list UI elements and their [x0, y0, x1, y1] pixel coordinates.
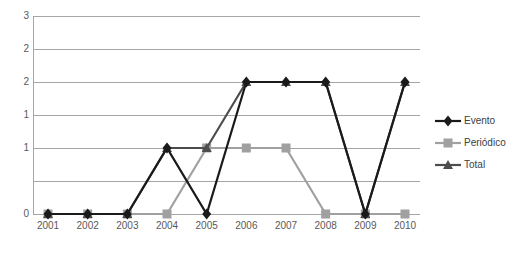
x-axis-tick-label: 2005: [187, 220, 227, 232]
chart-legend: EventoPeriódicoTotal: [434, 110, 518, 176]
x-axis-tick-label: 2002: [68, 220, 108, 232]
legend-marker-diamond: [434, 114, 462, 128]
x-axis: 2001200220032004200520062007200820092010: [33, 220, 420, 240]
legend-item-total[interactable]: Total: [434, 154, 518, 176]
data-point-marker: [282, 144, 291, 153]
legend-item-peridico[interactable]: Periódico: [434, 132, 518, 154]
y-axis-tick-label: 2: [3, 77, 29, 87]
data-point-marker: [242, 144, 251, 153]
series-line: [48, 82, 405, 214]
series-line: [48, 148, 405, 214]
data-point-marker: [163, 210, 172, 219]
x-axis-tick-label: 2007: [266, 220, 306, 232]
series-layer: [33, 16, 420, 214]
legend-item-label: Periódico: [462, 137, 506, 149]
data-point-marker: [321, 210, 330, 219]
legend-item-evento[interactable]: Evento: [434, 110, 518, 132]
x-axis-tick-label: 2004: [147, 220, 187, 232]
y-axis: 322110: [0, 0, 29, 254]
series-evento: [44, 77, 410, 220]
y-axis-tick-label: 1: [3, 110, 29, 120]
x-axis-tick-label: 2003: [107, 220, 147, 232]
legend-item-label: Total: [462, 159, 485, 171]
y-axis-tick-label: 2: [3, 44, 29, 54]
y-axis-tick-label: 3: [3, 11, 29, 21]
x-axis-tick-label: 2010: [385, 220, 425, 232]
legend-marker-square: [434, 136, 462, 150]
data-point-marker: [401, 210, 410, 219]
y-axis-tick-label: 0: [3, 209, 29, 219]
legend-marker-triangle: [434, 158, 462, 172]
x-axis-tick-label: 2008: [306, 220, 346, 232]
x-axis-tick-label: 2006: [226, 220, 266, 232]
legend-item-label: Evento: [462, 115, 495, 127]
x-axis-tick-label: 2001: [28, 220, 68, 232]
x-axis-tick-label: 2009: [345, 220, 385, 232]
y-axis-tick-label: 1: [3, 143, 29, 153]
line-chart: 322110 200120022003200420052006200720082…: [0, 0, 518, 254]
